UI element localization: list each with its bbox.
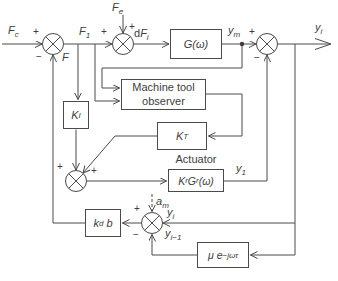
label-y1: y1 [236,162,246,177]
actuator-k: K [178,175,185,187]
observer-label: Machine tool observer [132,81,194,109]
label-f1-sub: 1 [86,31,90,40]
observer-label-line1: Machine tool [132,81,194,95]
sign-j4-plus-right: + [91,165,97,176]
wire-observer-to-kt [206,94,242,136]
integral-gain-sub: I [79,111,81,120]
observer-gain-base: K [176,130,183,142]
label-fe-base: F [112,1,119,13]
plant-label: G(ω) [184,38,208,50]
sign-j3-plus: + [249,26,255,37]
block-integral-gain: KI [63,101,89,129]
integral-gain-base: K [71,109,78,121]
label-ym: ym [228,24,240,39]
summing-junction-disturbance [113,34,134,55]
label-fc: Fc [8,24,19,39]
label-fe: Fe [112,1,123,16]
sign-j1-plus: + [33,26,39,37]
label-f1: F1 [79,25,90,40]
actuator-title: Actuator [166,153,226,165]
delay-sup: −jωτ [223,251,239,260]
label-dfi-base: F [140,27,147,39]
summing-junction-displacement [142,213,163,234]
block-delay: μ e−jωτ [197,242,249,268]
actuator-g: G [188,175,196,187]
block-machine-tool-observer: Machine tool observer [121,79,206,110]
label-fc-base: F [8,24,15,36]
label-ym-sub: m [234,30,241,39]
label-yi-feedback: yi [167,206,174,221]
block-displacement-gain: kd b [85,209,121,237]
observer-label-line2: observer [132,95,194,109]
label-dfi: dFi [134,27,149,42]
sign-j4-plus-top: + [57,161,63,172]
actuator-omega: (ω) [199,175,214,187]
summing-junction-actuator [66,171,87,192]
label-yi-feedback-sub: i [173,212,175,221]
observer-gain-sup: T [183,132,188,141]
label-yi-prev: yi−1 [165,227,181,242]
wire-f-feedback [53,55,85,223]
label-yi-prev-sub: i−1 [171,233,182,242]
sign-j2-plus-top: + [129,21,135,32]
sign-j3-minus: − [254,52,260,63]
summing-junction-force-error [43,34,64,55]
sign-j5-minus: − [133,229,139,240]
label-y1-sub: 1 [242,168,246,177]
kdb-b: b [106,217,112,229]
sign-j5-plus: + [134,203,140,214]
ym-branch-node [240,42,244,46]
delay-base: μ e [208,249,223,261]
control-block-diagram: G(ω) Machine tool observer KT KI Actuato… [0,0,338,281]
label-f-base: F [62,51,69,63]
kdb-k-sub: d [99,219,103,228]
sign-j2-plus-left: + [101,26,107,37]
label-f: F [62,51,69,63]
label-f1-base: F [79,25,86,37]
sign-j1-minus: − [36,51,42,62]
wire-f1-to-observer [95,44,120,101]
block-plant: G(ω) [170,29,222,59]
block-observer-gain: KT [157,122,207,150]
label-dfi-sub: i [147,33,149,42]
label-yi-output: yi [315,21,322,36]
label-fe-sub: e [119,7,123,16]
label-fc-sub: c [15,30,19,39]
label-yi-output-sub: i [321,27,323,36]
block-actuator: KrGr(ω) [168,169,224,192]
